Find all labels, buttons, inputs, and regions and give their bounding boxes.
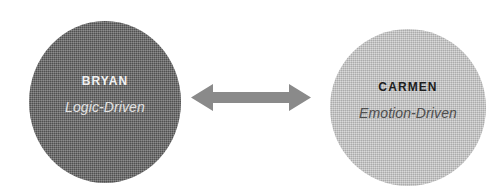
bidirectional-arrow	[191, 81, 311, 114]
double-headed-arrow-icon	[191, 81, 311, 114]
node-bryan-title: Bryan	[82, 71, 129, 88]
node-carmen-title: Carmen	[378, 77, 437, 94]
comparison-diagram: Bryan Logic-Driven Carmen Emotion-Driven	[0, 0, 504, 194]
node-bryan[interactable]: Bryan Logic-Driven	[29, 21, 181, 183]
node-bryan-subtitle: Logic-Driven	[65, 100, 145, 114]
node-carmen-subtitle: Emotion-Driven	[359, 106, 457, 120]
node-carmen[interactable]: Carmen Emotion-Driven	[330, 29, 486, 186]
